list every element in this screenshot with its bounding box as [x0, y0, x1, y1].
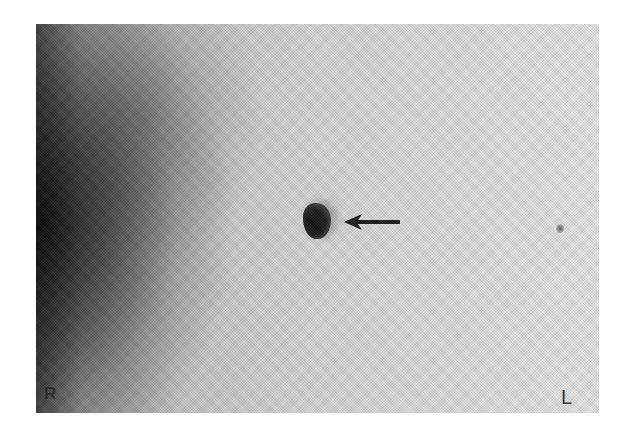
arrow-left-icon	[344, 212, 400, 232]
left-side-marker: L	[561, 386, 572, 409]
faint-spot	[556, 224, 564, 233]
right-side-marker: R	[44, 384, 56, 404]
focal-lesion	[303, 203, 331, 239]
radiograph-image: R L	[36, 24, 599, 413]
